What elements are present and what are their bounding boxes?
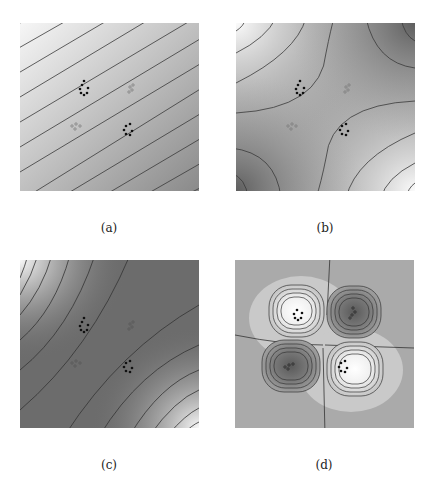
linear-gradient-plot [20, 23, 199, 191]
contour-panel-a [20, 23, 199, 191]
contour-panel-c [20, 260, 199, 428]
panel-caption-a: (a) [79, 221, 139, 235]
contour-panel-b [236, 23, 415, 191]
saddle-plot [236, 23, 415, 191]
panel-caption-c: (c) [79, 458, 139, 472]
panel-caption-d: (d) [294, 458, 354, 472]
valley-plot [20, 260, 199, 428]
quadrupole-plot [235, 260, 414, 428]
dark-lobe-lower-left [262, 340, 320, 392]
contour-panel-d [235, 260, 414, 428]
light-lobe-lower-right [327, 342, 383, 396]
panel-caption-b: (b) [295, 221, 355, 235]
